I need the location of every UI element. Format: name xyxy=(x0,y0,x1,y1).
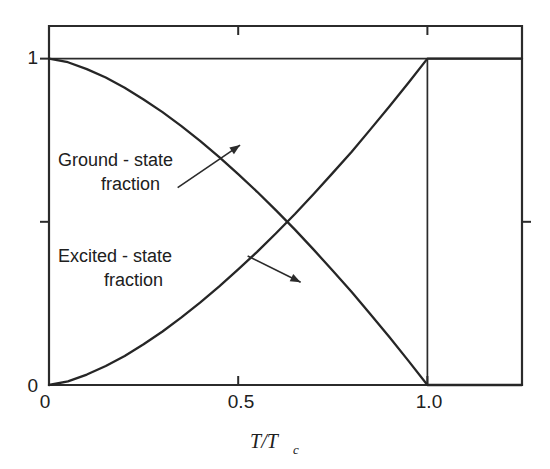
annotation-excited-state-line1: Excited - state xyxy=(58,246,172,266)
annotation-ground-state-line1: Ground - state xyxy=(58,150,173,170)
x-tick-label-0.5: 0.5 xyxy=(228,391,254,412)
x-tick-label-1.0: 1.0 xyxy=(416,391,442,412)
x-tick-label-0: 0 xyxy=(40,391,51,412)
y-tick-label-1: 1 xyxy=(27,47,38,68)
x-axis-title-main: T/T xyxy=(250,430,280,452)
annotation-excited-state-line2: fraction xyxy=(104,270,163,290)
y-tick-label-0: 0 xyxy=(27,375,38,396)
x-axis-title-subscript: c xyxy=(293,442,299,457)
chart-figure: 0 0.5 1.0 1 0 T/T c Ground - state fract… xyxy=(0,0,550,469)
bec-fraction-chart: 0 0.5 1.0 1 0 T/T c Ground - state fract… xyxy=(0,0,550,469)
annotation-ground-state-line2: fraction xyxy=(101,174,160,194)
